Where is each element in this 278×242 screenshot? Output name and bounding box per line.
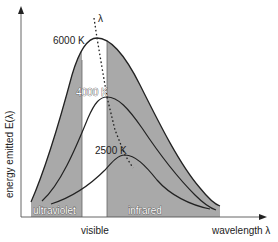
- blackbody-radiation-diagram: λ 6000 K 4000 K 2500 K ultraviolet infra…: [0, 0, 278, 242]
- x-axis-arrow-icon: [259, 214, 267, 220]
- label-2500k: 2500 K: [95, 145, 127, 156]
- label-visible: visible: [81, 225, 109, 236]
- label-ultraviolet: ultraviolet: [33, 205, 76, 216]
- shaded-regions: [31, 38, 220, 217]
- y-axis-arrow-icon: [18, 6, 24, 14]
- x-axis-label: wavelength λ: [211, 225, 270, 236]
- lambda-label: λ: [98, 13, 103, 24]
- label-infrared: infrared: [128, 205, 162, 216]
- y-axis-label: energy emitted E(λ): [4, 111, 15, 198]
- label-6000k: 6000 K: [53, 35, 85, 46]
- label-4000k: 4000 K: [76, 87, 108, 98]
